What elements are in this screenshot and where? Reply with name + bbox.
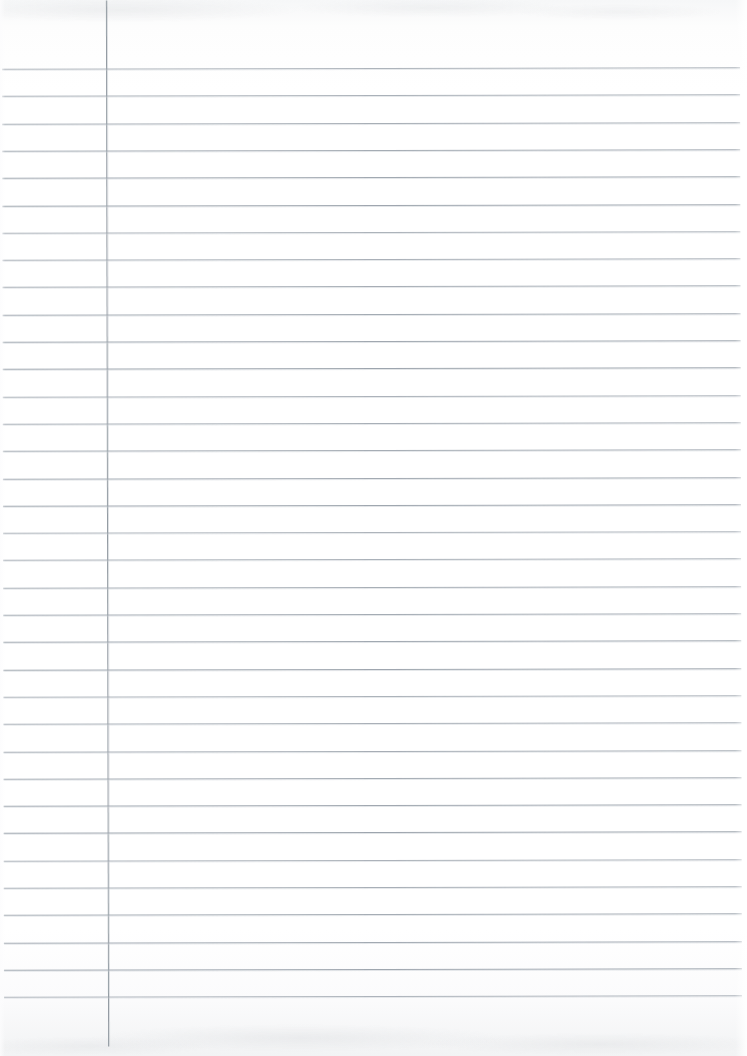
notebook-page <box>0 0 747 1056</box>
writing-area <box>108 0 741 1056</box>
margin-column <box>0 0 107 1056</box>
